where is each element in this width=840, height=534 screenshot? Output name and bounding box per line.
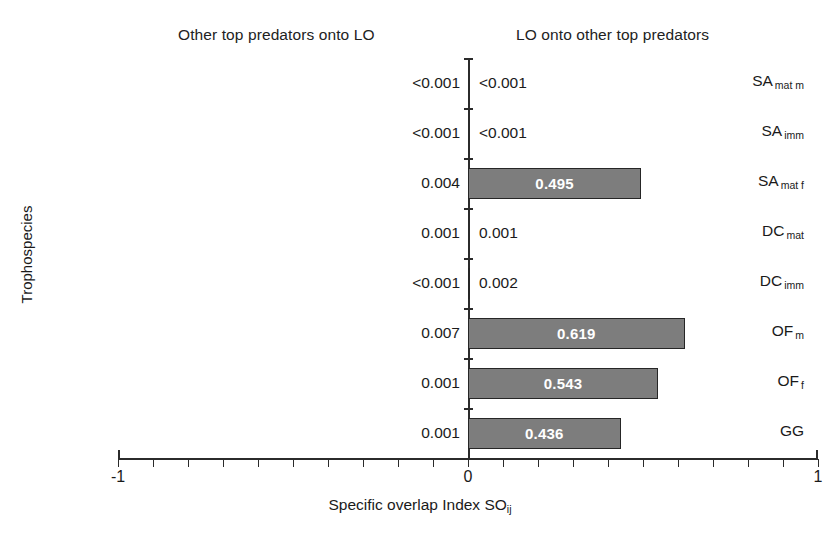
bar-value-label: 0.495: [469, 169, 640, 198]
x-axis-tick-label: 1: [798, 468, 838, 486]
x-axis-tick: [258, 459, 259, 467]
x-axis-tick: [468, 459, 469, 467]
left-series-value: 0.001: [298, 424, 460, 442]
category-label-main: DC: [760, 272, 782, 289]
x-axis-title-subscript: ij: [507, 503, 512, 515]
y-axis-tick: [464, 258, 473, 260]
x-axis-tick: [573, 459, 574, 467]
column-header-left: Other top predators onto LO: [178, 26, 375, 44]
y-axis-category-label: DCmat: [478, 222, 818, 241]
right-series-value: 0.001: [479, 224, 518, 242]
chart-row: DCimm<0.0010.002: [118, 258, 818, 308]
x-axis-tick: [678, 459, 679, 467]
value-bar: [468, 268, 470, 299]
chart-row: OFm0.0070.619: [118, 308, 818, 358]
x-axis-tick: [538, 459, 539, 467]
chart-row: SAimm<0.001<0.001: [118, 108, 818, 158]
chart-row: OFf0.0010.543: [118, 358, 818, 408]
y-axis-tick: [464, 308, 473, 310]
y-axis-tick: [464, 58, 473, 60]
value-bar: 0.495: [468, 168, 641, 199]
x-axis-tick-label: 0: [448, 468, 488, 486]
x-axis-tick: [503, 459, 504, 467]
y-axis-tick: [464, 158, 473, 160]
category-label-main: OF: [778, 372, 800, 389]
category-label-main: OF: [772, 322, 794, 339]
chart-figure: Other top predators onto LO LO onto othe…: [0, 0, 840, 534]
left-series-value: <0.001: [298, 74, 460, 92]
x-axis-right-cap: [816, 450, 818, 459]
left-series-value: 0.007: [298, 324, 460, 342]
category-label-subscript: mat f: [779, 179, 804, 191]
chart-row: GG0.0010.436: [118, 408, 818, 458]
category-label-subscript: m: [793, 329, 804, 341]
x-axis-tick-label: -1: [98, 468, 138, 486]
bar-value-label: 0.436: [469, 419, 620, 448]
value-bar: 0.543: [468, 368, 658, 399]
x-axis-tick: [363, 459, 364, 467]
category-label-main: SA: [758, 172, 779, 189]
y-axis-tick: [464, 208, 473, 210]
right-series-value: <0.001: [479, 124, 527, 142]
x-axis-tick: [153, 459, 154, 467]
x-axis-tick: [713, 459, 714, 467]
chart-row: DCmat0.0010.001: [118, 208, 818, 258]
left-series-value: 0.004: [298, 174, 460, 192]
category-label-subscript: mat m: [773, 79, 804, 91]
x-axis-tick: [293, 459, 294, 467]
left-series-value: 0.001: [298, 224, 460, 242]
y-axis-category-label: SAimm: [478, 122, 818, 141]
x-axis-tick: [328, 459, 329, 467]
left-series-value: 0.001: [298, 374, 460, 392]
x-axis-title-main: Specific overlap Index SO: [328, 496, 506, 513]
category-label-main: SA: [761, 122, 782, 139]
value-bar: 0.436: [468, 418, 621, 449]
y-axis-title: Trophospecies: [18, 185, 35, 325]
y-axis-tick: [464, 408, 473, 410]
x-axis-tick: [643, 459, 644, 467]
x-axis-tick: [398, 459, 399, 467]
y-axis-category-label: SAmat m: [478, 72, 818, 91]
x-axis-tick: [748, 459, 749, 467]
y-axis-category-label: DCimm: [478, 272, 818, 291]
right-series-value: <0.001: [479, 74, 527, 92]
x-axis-tick: [783, 459, 784, 467]
chart-row: SAmat f0.0040.495: [118, 158, 818, 208]
y-axis-tick: [464, 358, 473, 360]
left-series-value: <0.001: [298, 274, 460, 292]
x-axis-title: Specific overlap Index SOij: [0, 496, 840, 515]
category-label-subscript: f: [799, 379, 804, 391]
x-axis-tick: [608, 459, 609, 467]
column-header-right: LO onto other top predators: [516, 26, 709, 44]
x-axis-tick: [818, 459, 819, 467]
category-label-subscript: imm: [782, 279, 804, 291]
right-series-value: 0.002: [479, 274, 518, 292]
category-label-subscript: mat: [784, 229, 804, 241]
left-series-value: <0.001: [298, 124, 460, 142]
x-axis-tick: [433, 459, 434, 467]
category-label-main: SA: [752, 72, 773, 89]
x-axis-tick: [223, 459, 224, 467]
chart-row: SAmat m<0.001<0.001: [118, 58, 818, 108]
category-label-main: GG: [780, 422, 804, 439]
x-axis-left-cap: [118, 450, 120, 459]
value-bar: 0.619: [468, 318, 685, 349]
plot-area: SAmat m<0.001<0.001SAimm<0.001<0.001SAma…: [118, 58, 818, 458]
x-axis-tick: [118, 459, 119, 467]
x-axis-tick: [188, 459, 189, 467]
bar-value-label: 0.543: [469, 369, 657, 398]
bar-value-label: 0.619: [469, 319, 684, 348]
category-label-main: DC: [762, 222, 784, 239]
y-axis-tick: [464, 108, 473, 110]
category-label-subscript: imm: [782, 129, 804, 141]
